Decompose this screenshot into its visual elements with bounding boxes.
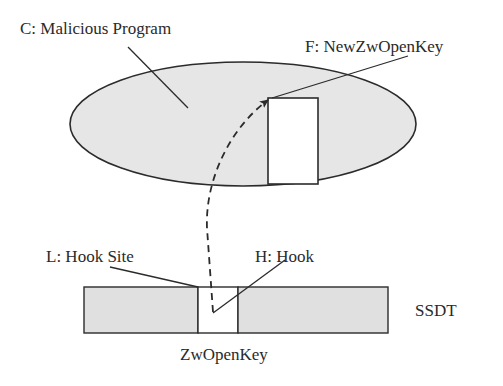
ssdt-label: SSDT xyxy=(415,302,457,319)
hook-site-leader xyxy=(110,267,198,287)
diagram-graphics xyxy=(0,0,503,386)
hook-site-label: L: Hook Site xyxy=(46,248,134,265)
malicious-program-label: C: Malicious Program xyxy=(20,20,171,37)
entry-label: ZwOpenKey xyxy=(180,346,268,363)
diagram-canvas: C: Malicious Program F: NewZwOpenKey L: … xyxy=(0,0,503,386)
hook-label: H: Hook xyxy=(255,248,314,265)
ssdt-right-segment xyxy=(238,287,388,333)
ssdt-left-segment xyxy=(84,287,198,333)
new-function-box xyxy=(268,98,318,184)
new-function-label: F: NewZwOpenKey xyxy=(305,38,443,55)
